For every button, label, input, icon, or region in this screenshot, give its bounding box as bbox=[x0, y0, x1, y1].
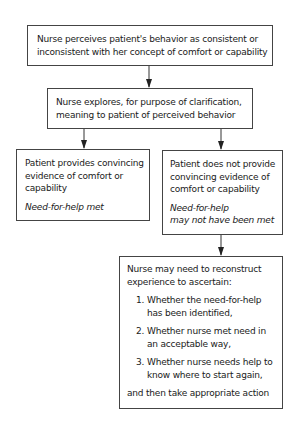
list-item: 2. Whether nurse met need in an acceptab… bbox=[127, 325, 282, 350]
outcome-label: may not have been met bbox=[170, 214, 282, 227]
list-item: 1. Whether the need-for-help has been id… bbox=[127, 294, 282, 319]
node-text-line: capability bbox=[25, 182, 149, 195]
node-text-line: Nurse may need to reconstruct bbox=[127, 263, 282, 276]
node-patient-convincing: Patient provides convincing evidence of … bbox=[16, 149, 150, 221]
closing-text: and then take appropriate action bbox=[127, 387, 282, 400]
node-text-line: Nurse perceives patient's behavior as co… bbox=[37, 33, 272, 46]
node-text-line: convincing evidence of bbox=[170, 171, 282, 184]
list-number: 2. bbox=[136, 325, 147, 350]
node-nurse-explores: Nurse explores, for purpose of clarifica… bbox=[47, 88, 253, 129]
node-text-line: evidence of comfort or bbox=[25, 170, 149, 183]
outcome-label: Need-for-help met bbox=[25, 201, 149, 214]
list-number: 1. bbox=[136, 294, 147, 319]
node-nurse-reconstruct: Nurse may need to reconstruct experience… bbox=[119, 256, 283, 409]
list-number: 3. bbox=[136, 356, 147, 381]
outcome-label: Need-for-help bbox=[170, 202, 282, 215]
node-nurse-perceives: Nurse perceives patient's behavior as co… bbox=[27, 25, 273, 66]
list-text-line: an acceptable way, bbox=[147, 338, 266, 351]
list-text-line: has been identified, bbox=[147, 307, 261, 320]
list-item: 3. Whether nurse needs help to know wher… bbox=[127, 356, 282, 381]
node-text-line: comfort or capability bbox=[170, 183, 282, 196]
list-text-line: Whether the need-for-help bbox=[147, 294, 261, 307]
list-text-line: Whether nurse needs help to bbox=[147, 356, 273, 369]
node-text-line: Nurse explores, for purpose of clarifica… bbox=[56, 96, 252, 109]
node-text-line: experience to ascertain: bbox=[127, 276, 282, 289]
node-text-line: meaning to patient of perceived behavior bbox=[56, 109, 252, 122]
node-patient-not-convincing: Patient does not provide convincing evid… bbox=[162, 150, 283, 235]
list-text-line: Whether nurse met need in bbox=[147, 325, 266, 338]
node-text-line: Patient provides convincing bbox=[25, 157, 149, 170]
node-text-line: Patient does not provide bbox=[170, 158, 282, 171]
list-text-line: know where to start again, bbox=[147, 369, 273, 382]
node-text-line: inconsistent with her concept of comfort… bbox=[37, 46, 272, 59]
